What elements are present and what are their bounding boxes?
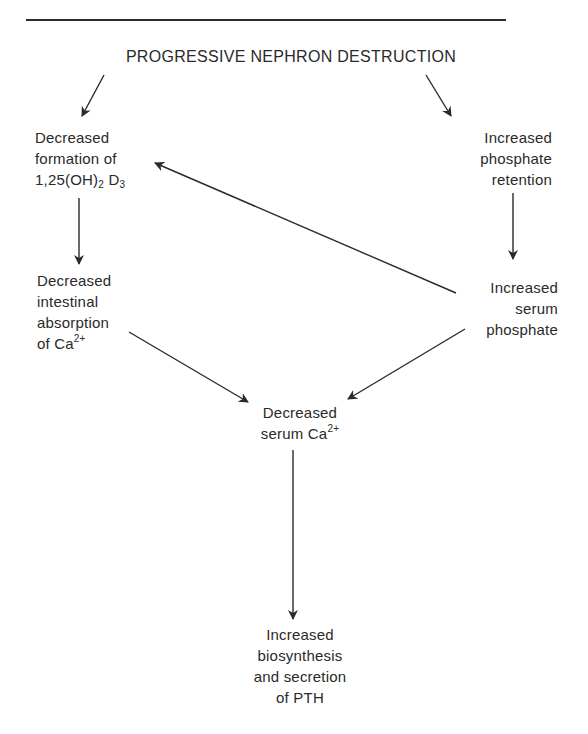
superscript: 2+ — [327, 423, 339, 434]
node-line: of PTH — [230, 687, 370, 708]
node-line: phosphate — [480, 148, 552, 169]
node-line: Increased — [230, 624, 370, 645]
subscript: 3 — [119, 179, 125, 190]
text: 1,25(OH) — [35, 171, 98, 188]
node-line: Increased — [486, 277, 558, 298]
text: D — [104, 171, 119, 188]
arrow-destruction-to-formation — [82, 75, 104, 116]
arrow-serum-phosphate-to-serum-calcium — [348, 329, 465, 399]
node-line: serum — [486, 298, 558, 319]
node-line: formation of — [35, 148, 125, 169]
arrow-serum-phosphate-to-formation — [155, 163, 456, 293]
node-line: Decreased — [35, 127, 125, 148]
arrow-destruction-to-retention — [426, 75, 451, 116]
text: serum Ca — [261, 425, 328, 442]
node-line: 1,25(OH)2 D3 — [35, 169, 125, 190]
node-line: serum Ca2+ — [230, 423, 370, 444]
arrow-absorption-to-serum-calcium — [129, 332, 248, 402]
node-line: phosphate — [486, 319, 558, 340]
node-increased-phosphate-retention: Increased phosphate retention — [480, 127, 552, 190]
node-increased-pth: Increased biosynthesis and secretion of … — [230, 624, 370, 708]
node-line: Increased — [480, 127, 552, 148]
node-line: of Ca2+ — [37, 333, 111, 354]
node-line: intestinal — [37, 291, 111, 312]
node-decreased-serum-calcium: Decreased serum Ca2+ — [230, 402, 370, 444]
node-line: Decreased — [230, 402, 370, 423]
node-line: Decreased — [37, 270, 111, 291]
node-line: retention — [480, 169, 552, 190]
node-line: and secretion — [230, 666, 370, 687]
node-line: absorption — [37, 312, 111, 333]
node-decreased-intestinal-absorption: Decreased intestinal absorption of Ca2+ — [37, 270, 111, 354]
node-decreased-formation: Decreased formation of 1,25(OH)2 D3 — [35, 127, 125, 190]
text: of Ca — [37, 335, 74, 352]
node-increased-serum-phosphate: Increased serum phosphate — [486, 277, 558, 340]
superscript: 2+ — [74, 333, 86, 344]
node-line: biosynthesis — [230, 645, 370, 666]
